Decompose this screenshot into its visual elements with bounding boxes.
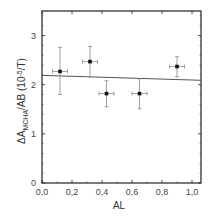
- y-axis-title: ΔAMCHA/AB (10-5/T): [16, 58, 29, 144]
- chart-svg: 0,00,20,40,60,81,00123ALΔAMCHA/AB (10-5/…: [0, 0, 214, 219]
- square-marker: [88, 60, 92, 64]
- y-tick-label: 2: [31, 80, 36, 90]
- x-tick-label: 0,2: [66, 187, 79, 197]
- square-marker: [105, 92, 109, 96]
- x-tick-label: 0,6: [126, 187, 139, 197]
- x-axis-title: AL: [113, 200, 126, 211]
- plot-frame: [42, 11, 201, 183]
- x-tick-label: 0,4: [96, 187, 109, 197]
- x-tick-label: 1,0: [186, 187, 199, 197]
- x-tick-label: 0,8: [156, 187, 169, 197]
- data-point: [83, 46, 98, 76]
- data-point: [132, 79, 147, 109]
- y-tick-label: 0: [31, 178, 36, 188]
- square-marker: [138, 92, 142, 96]
- data-point: [99, 81, 114, 107]
- data-point: [170, 57, 185, 77]
- square-marker: [58, 70, 62, 74]
- x-tick-label: 0,0: [36, 187, 49, 197]
- y-tick-label: 1: [31, 129, 36, 139]
- chart: 0,00,20,40,60,81,00123ALΔAMCHA/AB (10-5/…: [0, 0, 214, 219]
- square-marker: [175, 65, 179, 69]
- data-point: [53, 47, 68, 94]
- y-tick-label: 3: [31, 31, 36, 41]
